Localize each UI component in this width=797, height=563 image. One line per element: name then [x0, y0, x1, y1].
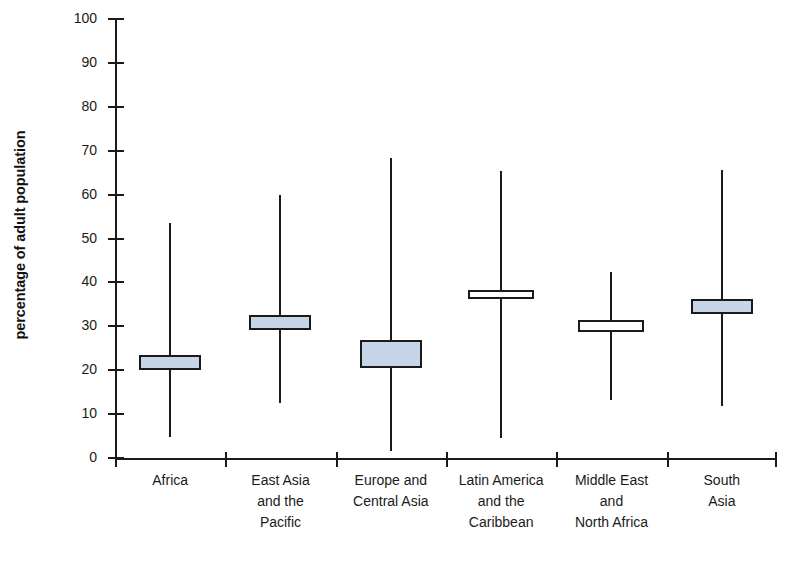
y-axis-title-text: percentage of adult population: [12, 131, 28, 340]
whisker-line: [721, 170, 723, 406]
box-body: [691, 299, 753, 314]
category-label-line: and the: [446, 491, 556, 512]
category-label-3: Latin Americaand theCaribbean: [446, 470, 556, 533]
y-tick-label-0: 0: [89, 448, 97, 466]
y-tick-label-30: 30: [81, 316, 97, 334]
box-whisker-chart: percentage of adult population 100908070…: [0, 0, 797, 563]
category-label-4: Middle EastandNorth Africa: [556, 470, 666, 533]
whisker-line: [390, 158, 392, 451]
y-axis-title: percentage of adult population: [0, 0, 40, 470]
y-tick-label-60: 60: [81, 185, 97, 203]
category-label-1: East Asiaand thePacific: [225, 470, 335, 533]
y-tick-label-80: 80: [81, 97, 97, 115]
category-label-line: and the: [225, 491, 335, 512]
category-label-5: SouthAsia: [667, 470, 777, 512]
y-tick-label-70: 70: [81, 141, 97, 159]
category-label-line: Pacific: [225, 512, 335, 533]
y-tick-label-100: 100: [74, 9, 97, 27]
box-plot-0[interactable]: [115, 19, 225, 458]
category-label-line: Africa: [115, 470, 225, 491]
category-label-line: North Africa: [556, 512, 666, 533]
box-plot-1[interactable]: [225, 19, 335, 458]
y-tick-label-40: 40: [81, 272, 97, 290]
category-label-line: Caribbean: [446, 512, 556, 533]
category-label-line: Middle East: [556, 470, 666, 491]
category-label-line: Central Asia: [336, 491, 446, 512]
y-tick-label-10: 10: [81, 404, 97, 422]
box-body: [249, 315, 311, 329]
whisker-line: [169, 223, 171, 437]
box-body: [139, 355, 201, 370]
box-plot-2[interactable]: [336, 19, 446, 458]
box-body: [468, 290, 534, 299]
box-plot-5[interactable]: [667, 19, 777, 458]
box-plot-3[interactable]: [446, 19, 556, 458]
category-label-line: East Asia: [225, 470, 335, 491]
category-label-2: Europe andCentral Asia: [336, 470, 446, 512]
x-axis-category-labels: AfricaEast Asiaand thePacificEurope andC…: [115, 470, 777, 560]
whisker-line: [610, 272, 612, 399]
box-body: [360, 340, 422, 367]
category-label-line: South: [667, 470, 777, 491]
y-tick-label-50: 50: [81, 229, 97, 247]
category-label-line: and: [556, 491, 666, 512]
category-label-line: Asia: [667, 491, 777, 512]
box-body: [578, 320, 644, 333]
y-tick-label-20: 20: [81, 360, 97, 378]
plot-area: 1009080706050403020100: [115, 19, 777, 458]
category-label-line: Latin America: [446, 470, 556, 491]
category-label-line: Europe and: [336, 470, 446, 491]
y-tick-label-90: 90: [81, 53, 97, 71]
box-plot-4[interactable]: [556, 19, 666, 458]
whisker-line: [500, 171, 502, 438]
category-label-0: Africa: [115, 470, 225, 491]
whisker-line: [279, 195, 281, 403]
